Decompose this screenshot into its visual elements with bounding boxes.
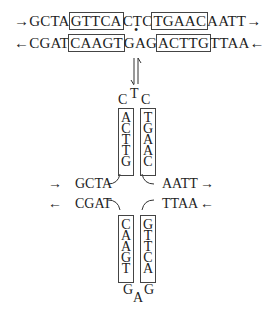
strand-curves — [108, 174, 154, 210]
bottom-stem-right: G T T C A — [140, 215, 156, 283]
lower-left-flank: CGAT — [75, 196, 112, 212]
connector-lines — [0, 0, 272, 312]
top-loop-middle: T — [130, 86, 139, 102]
top-stem-right: T G A A C — [140, 108, 156, 176]
upper-arrow-left: → — [48, 176, 62, 192]
bottom-loop-middle: A — [133, 290, 143, 306]
upper-right-flank: AATT — [162, 176, 198, 192]
lower-arrow-right: ← — [200, 196, 214, 212]
top-loop-left: C — [118, 92, 127, 108]
base: C — [143, 156, 152, 167]
bottom-loop-left: G — [123, 282, 133, 298]
base: A — [143, 263, 153, 274]
lower-right-flank: TTAA — [162, 196, 198, 212]
base: T — [122, 263, 131, 274]
bottom-stem-left: C A A G T — [118, 215, 134, 283]
bottom-loop-right: G — [144, 282, 154, 298]
equilibrium-arrow-icon — [131, 58, 141, 85]
top-loop-right: C — [141, 92, 150, 108]
base: G — [121, 156, 131, 167]
upper-left-flank: GCTA — [75, 176, 112, 192]
upper-arrow-right: → — [200, 176, 214, 192]
top-stem-left: A C T T G — [118, 108, 134, 176]
lower-arrow-left: ← — [48, 196, 62, 212]
